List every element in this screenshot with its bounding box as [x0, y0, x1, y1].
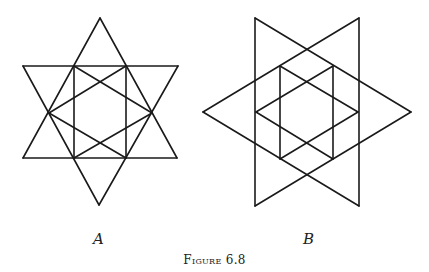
figure-caption: Figure 6.8 [0, 253, 429, 267]
line-segment [280, 112, 358, 159]
panel-label-b: B [303, 230, 314, 248]
star-diagram-a [23, 18, 178, 205]
line-segment [256, 112, 333, 159]
figure-canvas [0, 0, 429, 272]
panel-label-a: A [93, 230, 104, 248]
star-diagram-b [203, 18, 411, 206]
